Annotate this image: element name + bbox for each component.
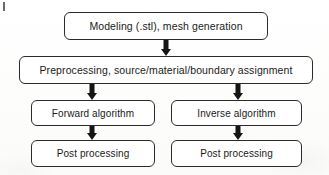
flow-node-post-processing-left: Post processing xyxy=(31,140,155,167)
arrow-down-icon-forward-to-post-processing xyxy=(86,126,98,140)
flow-node-preprocessing: Preprocessing, source/material/boundary … xyxy=(19,56,313,84)
arrow-head xyxy=(87,133,97,140)
flow-node-preprocessing-label: Preprocessing, source/material/boundary … xyxy=(39,64,292,76)
arrow-head xyxy=(161,49,171,56)
flow-node-modeling-label: Modeling (.stl), mesh generation xyxy=(89,20,242,32)
flow-node-forward-algorithm: Forward algorithm xyxy=(31,100,155,126)
arrow-stem xyxy=(236,84,241,93)
arrow-down-icon-preprocessing-to-inverse xyxy=(232,84,244,100)
flow-node-post-processing-left-label: Post processing xyxy=(57,148,130,159)
flow-node-modeling: Modeling (.stl), mesh generation xyxy=(64,12,268,40)
arrow-head xyxy=(233,93,243,100)
arrow-stem xyxy=(236,126,241,133)
arrow-stem xyxy=(90,126,95,133)
arrow-stem xyxy=(90,84,95,93)
flow-node-post-processing-right: Post processing xyxy=(171,140,302,167)
scan-artifact-mark xyxy=(3,2,5,11)
arrow-down-icon-preprocessing-to-forward xyxy=(86,84,98,100)
arrow-stem xyxy=(164,40,169,49)
flow-node-inverse-algorithm: Inverse algorithm xyxy=(171,100,302,126)
arrow-head xyxy=(87,93,97,100)
arrow-down-icon-modeling-to-preprocessing xyxy=(160,40,172,56)
flow-node-inverse-algorithm-label: Inverse algorithm xyxy=(197,108,275,119)
flow-node-forward-algorithm-label: Forward algorithm xyxy=(52,108,134,119)
flow-node-post-processing-right-label: Post processing xyxy=(200,148,273,159)
flowchart-canvas: Modeling (.stl), mesh generation Preproc… xyxy=(0,0,329,175)
arrow-down-icon-inverse-to-post-processing xyxy=(232,126,244,140)
arrow-head xyxy=(233,133,243,140)
